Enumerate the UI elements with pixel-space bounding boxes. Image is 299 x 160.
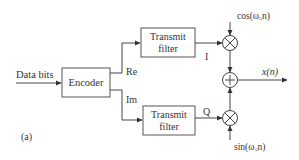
filter-bottom-line1: Transmit <box>151 109 187 120</box>
q-label: Q <box>203 106 211 117</box>
cos-label: cos(ω꜀n) <box>237 11 270 22</box>
i-label: I <box>205 51 208 62</box>
filter-top-line2: filter <box>158 43 178 54</box>
sin-label: sin(ω꜀n) <box>234 142 265 153</box>
input-label: Data bits <box>16 69 54 80</box>
im-label: Im <box>126 94 137 105</box>
filter-top-line1: Transmit <box>150 31 186 42</box>
output-label: x(n) <box>261 66 279 78</box>
qam-transmitter-diagram: Data bits Encoder Re Im Transmit filter … <box>0 0 299 160</box>
filter-bottom-line2: filter <box>159 121 179 132</box>
encoder-label: Encoder <box>69 77 104 88</box>
panel-label: (a) <box>21 131 32 143</box>
re-label: Re <box>126 66 138 77</box>
